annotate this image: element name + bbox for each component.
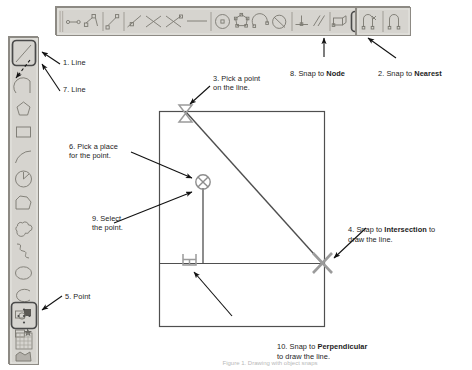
callout-2-text: Snap to (386, 69, 414, 78)
figure-caption: Figure 1. Drawing with object snaps (150, 360, 390, 369)
callout-6-pick-place: 6. Pick a place for the point. (69, 142, 118, 161)
callout-4-bold: Intersection (384, 225, 427, 234)
callout-10-bold: Perpendicular (317, 342, 367, 351)
callout-4-text: Snap to (356, 225, 384, 234)
figure-root: 1. Line 7. Line 5. Point 8. Snap to Node… (0, 0, 472, 370)
leader-3 (190, 86, 210, 104)
callout-8-bold: Node (326, 69, 345, 78)
leader-6 (131, 152, 192, 178)
callout-8-text: Snap to (298, 69, 326, 78)
leader-2 (368, 38, 396, 58)
leader-9 (114, 192, 192, 223)
leader-7-dash (16, 60, 30, 78)
callout-4-snap-intersection: 4. Snap to Intersection to draw the line… (348, 216, 470, 244)
callout-2-snap-nearest: 2. Snap to Nearest (378, 60, 442, 79)
callout-5-point: 5. Point (65, 292, 90, 301)
callout-10-text: Snap to (290, 342, 318, 351)
callout-10-num: 10. (277, 342, 287, 351)
callout-2-bold: Nearest (414, 69, 441, 78)
callout-8-snap-node: 8. Snap to Node (290, 60, 345, 79)
callout-10-snap-perpendicular: 10. Snap to Perpendicular to draw the li… (277, 333, 417, 361)
callout-9-select-point: 9. Select the point. (92, 214, 123, 233)
callout-7-line: 7. Line (63, 85, 86, 94)
leader-10 (194, 272, 232, 316)
leader-1 (42, 52, 60, 64)
callout-leaders (0, 0, 472, 370)
leader-5 (42, 296, 62, 310)
callout-3-pick-point: 3. Pick a point on the line. (213, 74, 260, 93)
callout-1-line: 1. Line (63, 58, 86, 67)
leader-7 (42, 64, 60, 91)
